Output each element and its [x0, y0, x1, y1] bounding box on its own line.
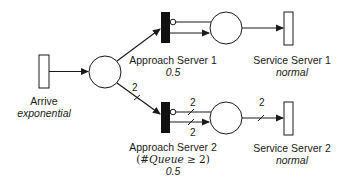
server2-place — [210, 102, 242, 134]
arrive-distribution: exponential — [5, 107, 83, 119]
weight-server2-service2: 2 — [259, 97, 265, 108]
approach-server-2-probability: 0.5 — [118, 165, 228, 177]
arrive-name: Arrive — [5, 95, 83, 107]
service-server-2-distribution: normal — [244, 154, 340, 166]
service-server-1-distribution: normal — [244, 66, 340, 78]
service-server-1-label: Service Server 1 normal — [244, 54, 340, 78]
approach-server-2-name: Approach Server 2 — [118, 141, 228, 153]
service-server-2-transition — [284, 102, 293, 135]
server1-place — [210, 12, 242, 44]
approach-server-2-label: Approach Server 2 (#Queue ≥ 2) 0.5 — [118, 141, 228, 177]
arrive-label: Arrive exponential — [5, 95, 83, 119]
service-server-2-label: Service Server 2 normal — [244, 142, 340, 166]
weight-inhibitor-server2: 2 — [190, 97, 196, 108]
inhibitor-circle-server2 — [170, 109, 176, 115]
approach-server-2-transition — [161, 102, 170, 133]
inhibitor-circle-server1 — [170, 19, 176, 25]
approach-server-1-label: Approach Server 1 0.5 — [118, 54, 228, 78]
approach-server-1-name: Approach Server 1 — [118, 54, 228, 66]
queue-place — [89, 56, 121, 88]
service-server-2-name: Service Server 2 — [244, 142, 340, 154]
approach-server-1-transition — [161, 12, 170, 43]
approach-server-1-probability: 0.5 — [118, 66, 228, 78]
weight-approach2-server2: 2 — [190, 127, 196, 138]
arc-queue-to-approach2 — [117, 83, 160, 114]
weight-queue-approach2: 2 — [132, 82, 138, 93]
arrive-transition — [39, 55, 49, 88]
service-server-1-transition — [284, 12, 293, 45]
approach-server-2-guard: (#Queue ≥ 2) — [118, 153, 228, 165]
service-server-1-name: Service Server 1 — [244, 54, 340, 66]
